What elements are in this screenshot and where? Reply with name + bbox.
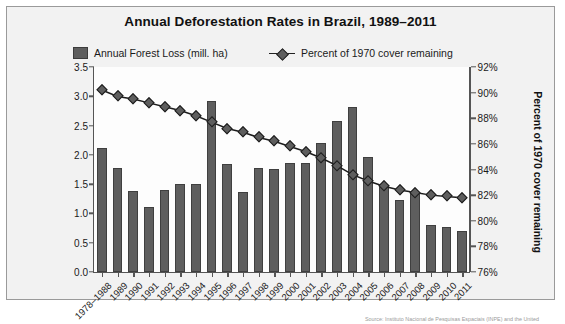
x-tick-mark [102,272,103,277]
y-left-tick-mark [89,66,94,67]
y-left-tick-label: 1.5 [74,179,88,190]
y-left-tick-label: 3.5 [74,62,88,73]
y-right-tick-mark [471,271,476,272]
y-left-tick-mark [89,96,94,97]
x-tick-mark [353,272,354,277]
x-tick-mark [259,272,260,277]
x-tick-mark [415,272,416,277]
chart-legend: Annual Forest Loss (mill. ha) Percent of… [73,45,493,61]
y-left-tick-mark [89,154,94,155]
y-left-tick-label: 0.0 [74,267,88,278]
x-tick-mark [212,272,213,277]
y-left-tick-label: 3.0 [74,91,88,102]
chart-title: Annual Deforestation Rates in Brazil, 19… [7,14,554,29]
x-tick-mark [180,272,181,277]
y-right-tick-mark [471,169,476,170]
x-tick-mark [165,272,166,277]
legend-bar-swatch-icon [73,47,88,59]
x-tick-mark [133,272,134,277]
y-right-tick-mark [471,143,476,144]
y-left-tick-label: 0.5 [74,237,88,248]
x-tick-mark [337,272,338,277]
x-tick-mark [196,272,197,277]
x-tick-mark [149,272,150,277]
y-axis-right-ticks: 76%78%80%82%84%86%88%90%92% [469,67,471,272]
x-tick-mark [227,272,228,277]
y-right-tick-label: 88% [478,113,498,124]
figure-caption: Source: Instituto Nacional de Pesquisas … [0,316,565,324]
y-right-tick-label: 80% [478,215,498,226]
legend-item-annual-forest-loss: Annual Forest Loss (mill. ha) [73,45,228,61]
y-right-tick-mark [471,92,476,93]
y-left-tick-mark [89,213,94,214]
percent-cover-line [102,90,462,198]
y-right-tick-mark [471,220,476,221]
x-tick-mark [431,272,432,277]
y-right-tick-mark [471,194,476,195]
legend-line-label: Percent of 1970 cover remaining [301,47,453,59]
x-tick-mark [290,272,291,277]
plot-area: 0.00.51.01.52.02.53.03.5 1978–1988198919… [93,67,470,273]
x-tick-mark [368,272,369,277]
y-axis-right-title: Percent of 1970 cover remaining [532,77,544,267]
y-right-tick-label: 82% [478,190,498,201]
y-right-tick-mark [471,118,476,119]
y-left-tick-mark [89,125,94,126]
x-tick-mark [321,272,322,277]
y-right-tick-label: 92% [478,62,498,73]
legend-diamond-marker-icon [276,48,289,61]
x-tick-mark [384,272,385,277]
y-right-tick-label: 90% [478,87,498,98]
y-right-tick-mark [471,66,476,67]
y-right-tick-label: 76% [478,267,498,278]
x-tick-mark [447,272,448,277]
x-tick-mark [462,272,463,277]
x-tick-mark [274,272,275,277]
y-left-tick-mark [89,242,94,243]
y-left-tick-label: 1.0 [74,208,88,219]
legend-line-marker-icon [269,48,295,58]
y-left-tick-mark [89,183,94,184]
x-tick-mark [243,272,244,277]
x-tick-mark [118,272,119,277]
legend-bar-label: Annual Forest Loss (mill. ha) [94,47,228,59]
y-left-tick-label: 2.5 [74,120,88,131]
y-right-tick-label: 84% [478,164,498,175]
y-right-tick-label: 78% [478,241,498,252]
y-right-tick-mark [471,246,476,247]
legend-item-percent-cover-remaining: Percent of 1970 cover remaining [269,45,453,61]
y-right-tick-label: 86% [478,138,498,149]
chart-figure: Annual Deforestation Rates in Brazil, 19… [6,6,555,300]
y-left-tick-label: 2.0 [74,149,88,160]
x-tick-mark [400,272,401,277]
y-left-tick-mark [89,271,94,272]
x-tick-mark [306,272,307,277]
